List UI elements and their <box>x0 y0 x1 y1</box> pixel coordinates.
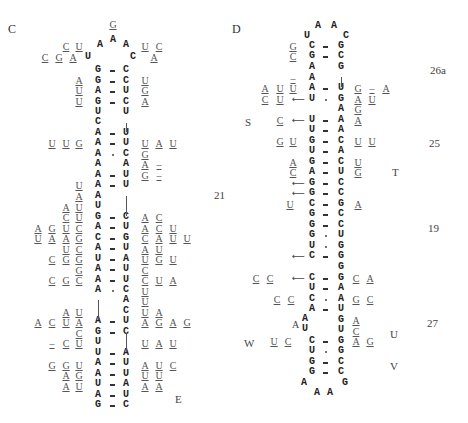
arrow-left-icon: ⟵ <box>292 188 305 198</box>
wobble-pair-dot <box>325 99 327 101</box>
stem-nucleotide-right: A <box>336 125 346 135</box>
variant-nucleotide: A <box>353 116 363 126</box>
variant-nucleotide: U <box>285 200 295 210</box>
variant-nucleotide: A <box>154 234 164 244</box>
variant-nucleotide: U <box>275 95 285 105</box>
variant-nucleotide: A <box>61 382 71 392</box>
variant-nucleotide: C <box>47 276 57 286</box>
base-pair-bond <box>110 332 115 334</box>
loop-nucleotide: A <box>329 21 339 31</box>
variant-nucleotide: U <box>47 139 57 149</box>
base-pair-bond <box>323 214 328 216</box>
variant-nucleotide: C <box>74 276 84 286</box>
stem-nucleotide-right: G <box>336 262 346 272</box>
variant-nucleotide: U <box>140 339 150 349</box>
variant-nucleotide: U <box>74 213 84 223</box>
stem-nucleotide-left: A <box>93 358 103 368</box>
loop-nucleotide: A <box>312 388 322 398</box>
variant-nucleotide: G <box>154 255 164 265</box>
stem-nucleotide-right: A <box>121 379 131 389</box>
wobble-pair-dot <box>325 351 327 353</box>
stem-nucleotide-right: C <box>336 188 346 198</box>
base-pair-bond <box>323 341 328 343</box>
base-pair-bond <box>323 362 328 364</box>
panel-label: C <box>8 23 16 35</box>
variant-nucleotide: C <box>251 274 261 284</box>
variant-nucleotide: A <box>140 382 150 392</box>
region-label: W <box>244 337 254 349</box>
stem-nucleotide-right: U <box>121 316 131 326</box>
base-pair-bond <box>110 353 115 355</box>
variant-nucleotide: U <box>275 84 285 94</box>
wobble-pair-dot <box>325 246 327 248</box>
variant-nucleotide: C <box>47 255 57 265</box>
variant-nucleotide: A <box>140 213 150 223</box>
variant-nucleotide: U <box>61 139 71 149</box>
variant-nucleotide: A <box>140 318 150 328</box>
variant-nucleotide: G <box>353 105 363 115</box>
variant-nucleotide: C <box>140 234 150 244</box>
base-pair-bond <box>323 120 328 122</box>
variant-nucleotide: G <box>353 84 363 94</box>
stem-nucleotide-left: U <box>307 146 317 156</box>
variant-nucleotide: C <box>154 213 164 223</box>
variant-nucleotide: C <box>272 295 282 305</box>
variant-nucleotide: U <box>168 339 178 349</box>
base-pair-bond <box>110 280 115 282</box>
loop-nucleotide: G <box>340 378 350 388</box>
base-pair-bond <box>110 81 115 83</box>
stem-nucleotide-left: U <box>307 125 317 135</box>
variant-nucleotide: U <box>269 337 279 347</box>
stem-nucleotide-left: G <box>307 367 317 377</box>
loop-nucleotide: A <box>121 40 131 50</box>
variant-nucleotide: C <box>61 213 71 223</box>
stem-nucleotide-right: U <box>121 358 131 368</box>
loop-nucleotide: A <box>313 21 323 31</box>
variant-nucleotide: U <box>140 371 150 381</box>
base-pair-bond <box>110 321 115 323</box>
stem-nucleotide-right: C <box>121 400 131 410</box>
stem-nucleotide-left: C <box>307 251 317 261</box>
base-pair-bond <box>323 183 328 185</box>
wobble-pair-dot <box>325 299 327 301</box>
variant-nucleotide: A <box>351 316 361 326</box>
stem-nucleotide-left: C <box>93 117 103 127</box>
stem-nucleotide-right: A <box>121 159 131 169</box>
base-pair-bond <box>110 70 115 72</box>
stem-nucleotide-right: G <box>336 346 346 356</box>
base-pair-bond <box>110 143 115 145</box>
loop-nucleotide: A <box>108 35 118 45</box>
variant-nucleotide: – <box>154 171 164 181</box>
base-pair-bond <box>110 238 115 240</box>
variant-nucleotide: A <box>154 339 164 349</box>
base-pair-bond <box>323 46 328 48</box>
variant-nucleotide: G <box>47 361 57 371</box>
variant-nucleotide: G <box>154 318 164 328</box>
stem-connector-line <box>341 77 342 87</box>
variant-nucleotide: U <box>74 42 84 52</box>
variant-nucleotide: C <box>61 42 71 52</box>
wobble-pair-dot <box>112 154 114 156</box>
variant-nucleotide: C <box>351 274 361 284</box>
variant-nucleotide: U <box>74 97 84 107</box>
variant-nucleotide: U <box>182 234 192 244</box>
variant-nucleotide: A <box>61 234 71 244</box>
variant-nucleotide: A <box>61 371 71 381</box>
variant-nucleotide: C <box>260 95 270 105</box>
stem-nucleotide-right: A <box>336 104 346 114</box>
variant-nucleotide: A <box>168 276 178 286</box>
stem-nucleotide-right: U <box>121 107 131 117</box>
base-pair-bond <box>323 172 328 174</box>
base-pair-bond <box>110 227 115 229</box>
base-pair-bond <box>110 259 115 261</box>
variant-nucleotide: U <box>140 255 150 265</box>
variant-nucleotide: G <box>61 276 71 286</box>
variant-nucleotide: A <box>47 234 57 244</box>
variant-nucleotide: U <box>74 86 84 96</box>
variant-nucleotide: C <box>286 295 296 305</box>
variant-nucleotide: A <box>351 337 361 347</box>
stem-nucleotide-left: G <box>307 209 317 219</box>
stem-nucleotide-left: U <box>93 337 103 347</box>
variant-nucleotide: C <box>154 42 164 52</box>
variant-nucleotide: C <box>365 295 375 305</box>
